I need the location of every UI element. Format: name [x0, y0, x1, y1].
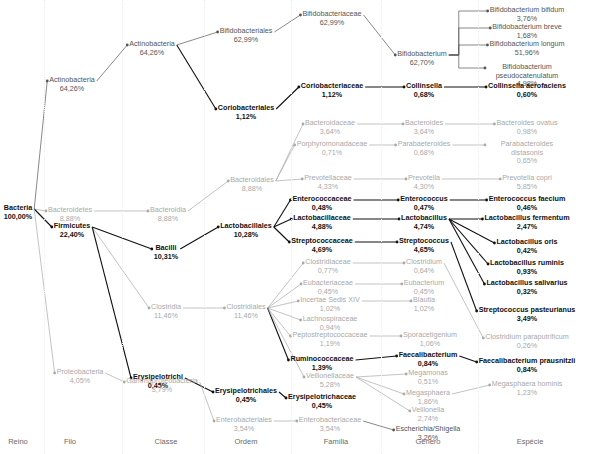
- edge-arrow-dot: [53, 372, 56, 375]
- edge-arrow-dot: [486, 44, 489, 47]
- edge-arrow-dot: [398, 218, 401, 221]
- taxon-percentage: 3,54%: [299, 425, 361, 434]
- taxon-percentage: 4,74%: [401, 223, 447, 232]
- edge-arrow-dot: [50, 226, 53, 229]
- taxon-percentage: 22,40%: [54, 231, 90, 240]
- taxon-percentage: 0,71%: [297, 149, 368, 158]
- taxon-node-bacteroidales: Bacteroidales8,88%: [230, 176, 274, 193]
- taxon-node-c-aerofaciens: Collinsella aerofaciens0,60%: [488, 82, 566, 99]
- edge-bifidobacteriaceae-to-bifidobacterium: [364, 15, 396, 55]
- edge-bifidobacteriales-to-bifidobacteriaceae: [274, 15, 300, 32]
- taxon-percentage: 100,00%: [4, 213, 32, 222]
- edge-bifidobacterium-to-b-longum: [449, 45, 488, 55]
- taxon-percentage: 0,65%: [487, 157, 567, 166]
- taxon-percentage: 0,47%: [400, 204, 448, 213]
- taxon-percentage: 0,77%: [305, 267, 351, 276]
- edge-arrow-dot: [405, 178, 408, 181]
- edge-bacteroidia-to-bacteroidales: [188, 181, 228, 211]
- edge-actinobacteria-c-to-bifidobacteriales: [177, 32, 218, 45]
- taxon-node-f-prausnitzii: Faecalibacterium prausnitzii0,84%: [479, 357, 576, 374]
- edge-arrow-dot: [287, 359, 290, 362]
- taxon-percentage: 0,42%: [496, 247, 557, 256]
- taxon-node-c-paraputrificum: Clostridium paraputrificum0,26%: [485, 333, 568, 350]
- edge-arrow-dot: [217, 226, 220, 229]
- edge-arrow-dot: [45, 210, 48, 213]
- edge-arrow-dot: [303, 376, 306, 379]
- taxon-node-l-salivarius: Lactobacillus salivarius0,32%: [486, 279, 567, 296]
- edge-arrow-dot: [302, 262, 305, 265]
- edge-arrow-dot: [123, 381, 126, 384]
- taxon-node-collinsella: Collinsella0,68%: [406, 82, 442, 99]
- edge-arrow-dot: [212, 391, 215, 394]
- edge-arrow-dot: [299, 14, 302, 17]
- edge-arrow-dot: [216, 31, 219, 34]
- taxon-node-lactobacillus: Lactobacillus4,74%: [401, 214, 447, 231]
- taxon-node-enterobacteriales: Enterobacteriales3,54%: [216, 416, 272, 433]
- taxon-percentage: 11,46%: [151, 312, 181, 321]
- taxon-percentage: 1,12%: [301, 91, 363, 100]
- taxon-node-megamonas: Megamonas0,51%: [408, 369, 448, 386]
- column-divider: [291, 0, 292, 454]
- taxon-node-eubacterium: Eubacterium0,45%: [404, 279, 444, 296]
- taxon-percentage: 11,46%: [226, 312, 265, 321]
- taxon-percentage: 0,84%: [479, 366, 576, 375]
- edge-enterobacteriaceae-to-escherichia: [363, 421, 393, 430]
- taxon-percentage: 8,88%: [230, 185, 274, 194]
- taxon-node-clostridia: Clostridia11,46%: [151, 303, 181, 320]
- edge-arrow-dot: [285, 397, 288, 400]
- edge-arrow-dot: [481, 218, 484, 221]
- taxon-percentage: 10,31%: [154, 253, 178, 262]
- taxon-node-megasphaera: Megasphaera1,86%: [406, 389, 450, 406]
- taxon-percentage: 4,05%: [57, 377, 104, 386]
- taxon-node-enterococcaceae: Enterococcaceae0,48%: [292, 195, 351, 212]
- column-divider: [478, 0, 479, 454]
- taxon-node-prevotella: Prevotella4,30%: [408, 174, 440, 191]
- rank-label-1: Filo: [64, 437, 76, 446]
- taxon-percentage: 1,19%: [292, 340, 367, 349]
- edge-coriobacteriales-to-coriobacteriaceae: [276, 87, 299, 109]
- taxon-node-actinobacteria-c: Actinobacteria64,26%: [129, 40, 175, 57]
- rank-label-2: Classe: [155, 437, 178, 446]
- taxon-percentage: 0,26%: [485, 342, 568, 351]
- edge-bifidobacterium-to-b-breve: [449, 28, 490, 55]
- taxon-percentage: 2,47%: [484, 223, 569, 232]
- taxon-node-enterobacteriaceae: Enterobacteriaceae3,54%: [299, 416, 361, 433]
- taxon-percentage: 0,32%: [486, 288, 567, 297]
- taxon-node-b-longum: Bifidobacterium longum51,96%: [489, 40, 564, 57]
- rank-label-0: Reino: [8, 437, 28, 446]
- taxon-percentage: 1,02%: [413, 305, 435, 314]
- taxon-node-clostridiaceae: Clostridiaceae0,77%: [305, 258, 351, 275]
- edge-arrow-dot: [297, 86, 300, 89]
- taxon-percentage: 0,98%: [496, 128, 557, 137]
- edge-arrow-dot: [392, 429, 395, 432]
- edge-arrow-dot: [403, 86, 406, 89]
- edge-bifidobacterium-to-b-pseudo: [449, 55, 485, 68]
- taxon-percentage: 51,96%: [489, 49, 564, 58]
- taxon-percentage: 3,64%: [405, 128, 443, 137]
- edge-arrow-dot: [487, 263, 490, 266]
- taxon-node-p-copri: Prevotella copri5,85%: [502, 174, 552, 191]
- edge-arrow-dot: [227, 180, 230, 183]
- taxon-node-blautia: Blautia1,02%: [413, 296, 435, 313]
- taxon-node-sporacetigenium: Sporacetigenium1,06%: [403, 331, 457, 348]
- taxon-node-gammaproteobacteria: Gammaproteobacteria3,79%: [126, 377, 198, 394]
- taxon-node-p-distasonis: Parabacteroides distasonis0,65%: [487, 140, 567, 166]
- edge-arrow-dot: [489, 27, 492, 30]
- taxon-node-parabaeteroides: Parabaeteroides0,68%: [398, 140, 451, 157]
- taxon-percentage: 3,49%: [479, 315, 576, 324]
- edge-arrow-dot: [396, 241, 399, 244]
- taxon-node-l-oris: Lactobacillus oris0,42%: [496, 238, 557, 255]
- taxon-name: Bifidobacterium pseudocatenulatum: [487, 63, 567, 80]
- edge-arrow-dot: [499, 178, 502, 181]
- edge-arrow-dot: [300, 283, 303, 286]
- taxon-percentage: 5,85%: [502, 183, 552, 192]
- edge-arrow-dot: [150, 248, 153, 251]
- taxon-percentage: 4,30%: [408, 183, 440, 192]
- taxon-percentage: 1,06%: [403, 340, 457, 349]
- taxon-node-bifidobacterium: Bifidobacterium62,70%: [397, 50, 447, 67]
- edge-arrow-dot: [213, 420, 216, 423]
- taxon-node-ruminococcaceae: Ruminococcaceae1,39%: [290, 355, 353, 372]
- taxon-percentage: 8,88%: [150, 215, 186, 224]
- taxon-percentage: 1,23%: [492, 389, 563, 398]
- taxon-node-streptococcaceae: Streptococcaceae4,69%: [291, 237, 353, 254]
